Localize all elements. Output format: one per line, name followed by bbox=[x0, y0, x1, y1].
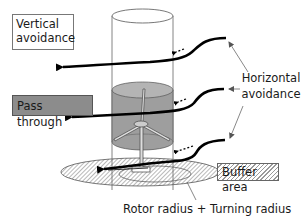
rotor-turning-radius-label: Rotor radius + Turning radius bbox=[123, 202, 291, 216]
vertical-avoidance-line2: avoidance bbox=[16, 31, 70, 45]
vertical-avoidance-line1: Vertical bbox=[16, 17, 70, 31]
pass-through-text: Pass through bbox=[17, 99, 62, 129]
rotor-turning-radius-text: Rotor radius + Turning radius bbox=[123, 202, 291, 216]
pass-through-label: Pass through bbox=[12, 95, 93, 116]
upper-avoidance-arrow bbox=[63, 38, 226, 67]
horizontal-avoidance-label: Horizontal avoidance bbox=[238, 70, 304, 102]
rotor-radius-pointer bbox=[187, 182, 196, 200]
vertical-avoidance-label: Vertical avoidance bbox=[12, 14, 74, 50]
buffer-area-label: Buffer area bbox=[217, 163, 279, 181]
horizontal-avoidance-line2: avoidance bbox=[238, 86, 304, 102]
horizontal-avoidance-line1: Horizontal bbox=[238, 70, 304, 86]
